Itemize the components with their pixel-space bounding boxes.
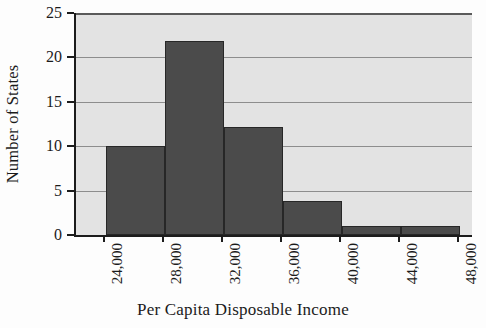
histogram-figure: Number of States 0510152025 24,00028,000… (0, 0, 486, 328)
x-tick-mark-44000 (398, 235, 400, 242)
y-tick-label-15: 15 (46, 93, 62, 111)
y-tick-label-10: 10 (46, 137, 62, 155)
x-tick-mark-48000 (457, 235, 459, 242)
y-tick-mark-5 (67, 190, 74, 192)
x-tick-label-28000: 28,000 (169, 243, 184, 284)
plot-area (74, 13, 472, 237)
x-tick-label-40000: 40,000 (346, 243, 361, 284)
x-axis-tick-marks (74, 235, 472, 243)
histogram-bar (165, 41, 224, 235)
y-tick-mark-0 (67, 234, 74, 236)
y-axis-title: Number of States (3, 65, 23, 184)
x-axis-tick-labels: 24,00028,00032,00036,00040,00044,00048,0… (74, 243, 472, 299)
x-tick-mark-24000 (103, 235, 105, 242)
y-tick-mark-25 (67, 12, 74, 14)
histogram-bar (224, 127, 283, 235)
x-tick-label-44000: 44,000 (405, 243, 420, 284)
y-tick-label-5: 5 (54, 182, 62, 200)
x-tick-mark-28000 (162, 235, 164, 242)
histogram-bar (283, 201, 342, 235)
histogram-bar (401, 226, 460, 235)
x-axis-title: Per Capita Disposable Income (0, 300, 486, 320)
y-tick-label-25: 25 (46, 4, 62, 22)
x-tick-mark-36000 (280, 235, 282, 242)
y-tick-mark-20 (67, 56, 74, 58)
x-tick-mark-40000 (339, 235, 341, 242)
x-tick-label-24000: 24,000 (110, 243, 125, 284)
x-tick-mark-32000 (221, 235, 223, 242)
y-tick-label-0: 0 (54, 226, 62, 244)
y-tick-mark-10 (67, 145, 74, 147)
x-tick-label-48000: 48,000 (464, 243, 479, 284)
gridline-y-15 (76, 102, 472, 103)
y-axis-title-container: Number of States (0, 0, 26, 248)
histogram-bar (106, 146, 165, 235)
y-tick-label-20: 20 (46, 48, 62, 66)
y-axis-tick-labels: 0510152025 (26, 0, 66, 248)
y-tick-mark-15 (67, 101, 74, 103)
gridline-y-25 (76, 13, 472, 15)
gridline-y-20 (76, 57, 472, 58)
plot-inner (76, 13, 472, 235)
x-tick-label-32000: 32,000 (228, 243, 243, 284)
histogram-bar (342, 226, 401, 235)
x-tick-label-36000: 36,000 (287, 243, 302, 284)
